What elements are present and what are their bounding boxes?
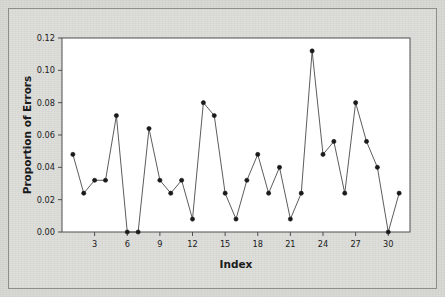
data-point xyxy=(147,126,151,130)
line-chart: 0.000.020.040.060.080.100.12 36912151821… xyxy=(0,0,445,297)
x-tick-label: 9 xyxy=(157,239,162,249)
data-point xyxy=(136,230,140,234)
data-point xyxy=(256,152,260,156)
data-point xyxy=(310,49,314,53)
y-tick-label: 0.02 xyxy=(37,195,55,205)
x-tick-label: 6 xyxy=(125,239,130,249)
data-point xyxy=(114,114,118,118)
data-point xyxy=(364,139,368,143)
x-axis-tick-labels: 36912151821242730 xyxy=(92,239,393,249)
y-tick-label: 0.06 xyxy=(37,130,55,140)
y-axis-tick-labels: 0.000.020.040.060.080.100.12 xyxy=(37,33,55,237)
data-point xyxy=(245,178,249,182)
x-tick-label: 21 xyxy=(285,239,295,249)
data-point xyxy=(125,230,129,234)
data-point xyxy=(234,217,238,221)
y-tick-label: 0.10 xyxy=(37,65,55,75)
x-tick-label: 15 xyxy=(220,239,230,249)
data-point xyxy=(93,178,97,182)
data-point xyxy=(71,152,75,156)
y-tick-label: 0.00 xyxy=(37,227,55,237)
x-axis-title: Index xyxy=(220,258,253,270)
y-tick-label: 0.08 xyxy=(37,98,55,108)
data-point xyxy=(321,152,325,156)
data-point xyxy=(375,165,379,169)
x-tick-label: 3 xyxy=(92,239,97,249)
x-tick-label: 24 xyxy=(318,239,328,249)
plot-area-background xyxy=(62,38,410,232)
y-axis-title: Proportion of Errors xyxy=(21,76,33,195)
data-point xyxy=(386,230,390,234)
data-point xyxy=(223,191,227,195)
data-point xyxy=(397,191,401,195)
x-tick-label: 12 xyxy=(187,239,197,249)
data-point xyxy=(332,139,336,143)
data-point xyxy=(277,165,281,169)
data-point xyxy=(343,191,347,195)
data-point xyxy=(158,178,162,182)
data-point xyxy=(82,191,86,195)
data-point xyxy=(201,101,205,105)
data-point xyxy=(212,114,216,118)
y-axis-tick-marks xyxy=(58,38,62,232)
data-point xyxy=(103,178,107,182)
y-tick-label: 0.04 xyxy=(37,162,55,172)
data-point xyxy=(180,178,184,182)
y-tick-label: 0.12 xyxy=(37,33,55,43)
figure-root: 0.000.020.040.060.080.100.12 36912151821… xyxy=(0,0,445,297)
x-tick-label: 27 xyxy=(350,239,360,249)
data-point xyxy=(190,217,194,221)
x-tick-label: 18 xyxy=(253,239,263,249)
data-point xyxy=(299,191,303,195)
x-tick-label: 30 xyxy=(383,239,393,249)
data-point xyxy=(354,101,358,105)
data-point xyxy=(288,217,292,221)
data-point xyxy=(267,191,271,195)
data-point xyxy=(169,191,173,195)
